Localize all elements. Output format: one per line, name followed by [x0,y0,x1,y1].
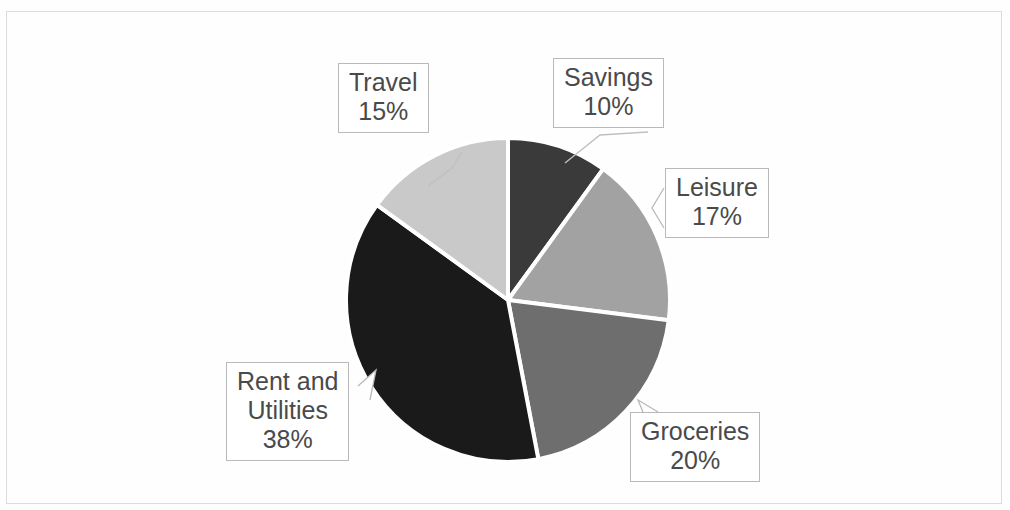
slice-label-rent-value: 38% [237,425,338,454]
slice-label-travel: Travel 15% [338,63,429,133]
slice-label-savings-name: Savings [564,63,653,92]
slice-label-rent-and-utilities: Rent and Utilities 38% [226,362,349,461]
pie-graphic [0,0,1010,510]
slice-label-groceries-value: 20% [641,446,749,475]
slice-label-savings: Savings 10% [553,58,664,128]
slice-label-savings-value: 10% [564,92,653,121]
slice-label-rent-line2: Utilities [237,396,338,425]
slice-label-leisure-value: 17% [676,202,758,231]
pie-chart-figure: Travel 15% Savings 10% Leisure 17% Groce… [0,0,1010,510]
slice-label-groceries-name: Groceries [641,417,749,446]
slice-label-groceries: Groceries 20% [630,412,760,482]
leader-tail-leisure [652,188,664,228]
slice-label-travel-name: Travel [349,68,418,97]
slice-label-leisure: Leisure 17% [665,168,769,238]
slice-label-rent-line1: Rent and [237,367,338,396]
slice-label-travel-value: 15% [349,97,418,126]
slice-label-leisure-name: Leisure [676,173,758,202]
pie-slice-group [346,138,670,462]
